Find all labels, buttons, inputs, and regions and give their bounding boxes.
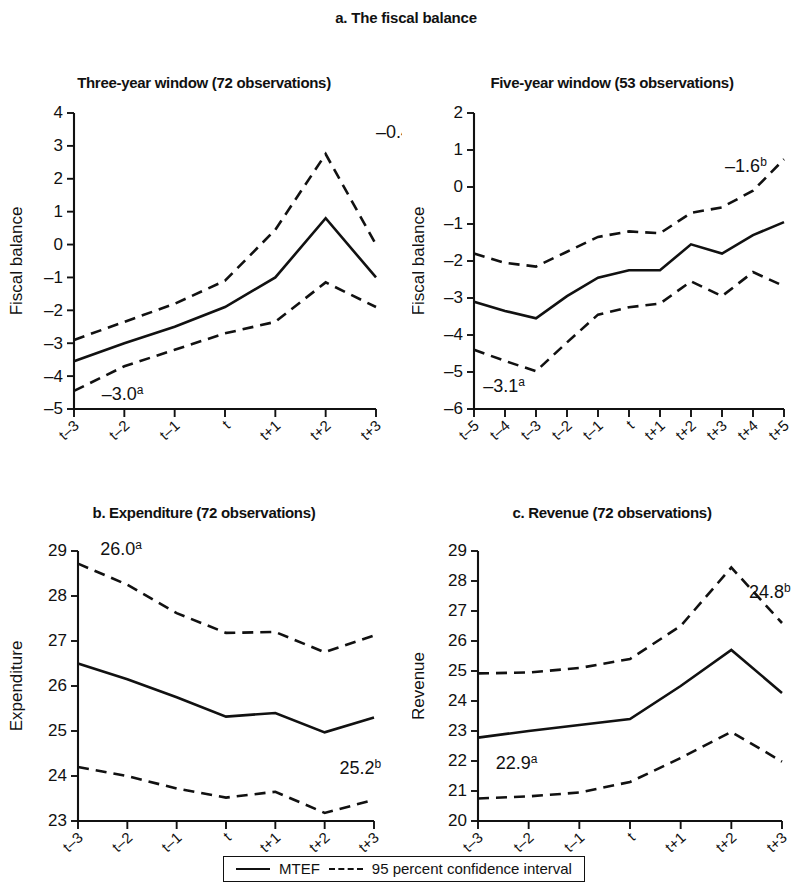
legend-swatch-mtef xyxy=(236,868,270,870)
y-axis-tick-label: –6 xyxy=(444,399,463,418)
series-confidence-interval-line xyxy=(478,568,782,674)
y-axis-tick-label: 22 xyxy=(448,751,467,770)
y-axis-tick-label: 20 xyxy=(448,811,467,830)
x-axis-tick-label: t+2 xyxy=(672,417,699,444)
y-axis-tick-label: –5 xyxy=(444,362,463,381)
y-axis-tick-label: –3 xyxy=(444,288,463,307)
legend-swatch-confidence-interval xyxy=(329,868,363,870)
x-axis-tick-label: t xyxy=(624,828,639,844)
x-axis-tick-label: t+1 xyxy=(256,829,283,856)
x-axis-tick-label: t+2 xyxy=(306,417,333,444)
chart-revenue: 29282726252423222120t–3t–2t–1tt+1t+2t+3R… xyxy=(412,521,812,873)
x-axis-tick-label: t xyxy=(220,828,235,844)
data-annotation: 24.8b xyxy=(749,581,791,602)
y-axis-tick-label: 28 xyxy=(448,571,467,590)
y-axis-tick-label: 1 xyxy=(54,202,63,221)
y-axis-tick-label: –2 xyxy=(44,301,63,320)
x-axis-tick-label: t–2 xyxy=(105,417,132,444)
x-axis-tick-label: t–5 xyxy=(455,417,482,444)
y-axis-tick-label: 26 xyxy=(48,676,67,695)
x-axis-tick-label: t–3 xyxy=(459,829,486,856)
x-axis-tick-label: t–4 xyxy=(486,417,513,444)
data-annotation: –3.1a xyxy=(483,375,525,396)
series-confidence-interval-line xyxy=(78,564,374,653)
x-axis-tick-label: t–1 xyxy=(579,417,606,444)
y-axis-title: Fiscal balance xyxy=(7,207,26,316)
y-axis-tick-label: –4 xyxy=(444,325,463,344)
y-axis-title: Expenditure xyxy=(7,641,26,732)
y-axis-tick-label: –4 xyxy=(44,367,63,386)
y-axis-tick-label: 25 xyxy=(448,661,467,680)
series-confidence-interval-line xyxy=(474,272,784,371)
series-mtef-line xyxy=(474,222,784,318)
y-axis-tick-label: –5 xyxy=(44,399,63,418)
x-axis-tick-label: t xyxy=(219,416,234,432)
y-axis-tick-label: 24 xyxy=(48,766,67,785)
y-axis-tick-label: 25 xyxy=(48,721,67,740)
figure-title: a. The fiscal balance xyxy=(0,0,812,26)
x-axis-tick-label: t+3 xyxy=(355,829,382,856)
x-axis-tick-label: t–1 xyxy=(560,829,587,856)
series-mtef-line xyxy=(74,218,376,361)
y-axis-tick-label: 1 xyxy=(454,140,463,159)
panel-revenue: c. Revenue (72 observations) 29282726252… xyxy=(412,504,812,884)
y-axis-tick-label: –2 xyxy=(444,251,463,270)
chart-three-year-window: 43210–1–2–3–4–5t–3t–2t–1tt+1t+2t+3Fiscal… xyxy=(6,91,402,491)
series-confidence-interval-line xyxy=(74,282,376,391)
x-axis-tick-label: t+3 xyxy=(703,417,730,444)
panel-title-five-year: Five-year window (53 observations) xyxy=(412,74,812,91)
legend-label-mtef: MTEF xyxy=(279,860,320,877)
chart-legend: MTEF 95 percent confidence interval xyxy=(223,856,585,882)
x-axis-tick-label: t+3 xyxy=(763,829,790,856)
panel-title-expenditure: b. Expenditure (72 observations) xyxy=(6,504,402,521)
y-axis-tick-label: 2 xyxy=(454,103,463,122)
x-axis-tick-label: t–3 xyxy=(517,417,544,444)
series-mtef-line xyxy=(78,664,374,733)
data-annotation: –0.4b xyxy=(376,121,402,142)
panel-expenditure: b. Expenditure (72 observations) 2928272… xyxy=(6,504,402,884)
y-axis-tick-label: –3 xyxy=(44,334,63,353)
y-axis-tick-label: –1 xyxy=(444,214,463,233)
x-axis-tick-label: t+5 xyxy=(765,417,792,444)
x-axis-tick-label: t–2 xyxy=(510,829,537,856)
x-axis-tick-label: t xyxy=(623,416,638,432)
y-axis-tick-label: 29 xyxy=(448,541,467,560)
y-axis-tick-label: 21 xyxy=(448,781,467,800)
legend-label-confidence-interval: 95 percent confidence interval xyxy=(372,860,572,877)
panel-three-year-window: Three-year window (72 observations) 4321… xyxy=(6,74,402,504)
x-axis-tick-label: t–1 xyxy=(156,417,183,444)
data-annotation: 22.9a xyxy=(496,752,538,773)
data-annotation: –1.6b xyxy=(725,155,767,176)
y-axis-tick-label: 4 xyxy=(54,103,63,122)
y-axis-tick-label: –1 xyxy=(44,268,63,287)
y-axis-tick-label: 23 xyxy=(448,721,467,740)
y-axis-title: Revenue xyxy=(412,652,428,720)
y-axis-tick-label: 0 xyxy=(54,235,63,254)
panel-five-year-window: Five-year window (53 observations) 210–1… xyxy=(412,74,812,504)
x-axis-tick-label: t–3 xyxy=(55,417,82,444)
y-axis-tick-label: 27 xyxy=(448,601,467,620)
x-axis-tick-label: t+2 xyxy=(305,829,332,856)
data-annotation: 25.2b xyxy=(339,757,381,778)
x-axis-tick-label: t+1 xyxy=(641,417,668,444)
y-axis-title: Fiscal balance xyxy=(412,207,428,316)
chart-five-year-window: 210–1–2–3–4–5–6t–5t–4t–3t–2t–1tt+1t+2t+3… xyxy=(412,91,812,491)
y-axis-tick-label: 3 xyxy=(54,136,63,155)
y-axis-tick-label: 29 xyxy=(48,541,67,560)
series-confidence-interval-line xyxy=(78,767,374,813)
panel-title-three-year: Three-year window (72 observations) xyxy=(6,74,402,91)
x-axis-tick-label: t–2 xyxy=(548,417,575,444)
x-axis-tick-label: t+4 xyxy=(734,417,761,444)
y-axis-tick-label: 28 xyxy=(48,586,67,605)
x-axis-tick-label: t+3 xyxy=(357,417,384,444)
y-axis-tick-label: 27 xyxy=(48,631,67,650)
x-axis-tick-label: t+1 xyxy=(661,829,688,856)
y-axis-tick-label: 26 xyxy=(448,631,467,650)
series-mtef-line xyxy=(478,650,782,738)
series-confidence-interval-line xyxy=(74,154,376,340)
chart-expenditure: 29282726252423t–3t–2t–1tt+1t+2t+3Expendi… xyxy=(6,521,402,873)
panel-title-revenue: c. Revenue (72 observations) xyxy=(412,504,812,521)
x-axis-tick-label: t+1 xyxy=(256,417,283,444)
x-axis-tick-label: t–2 xyxy=(108,829,135,856)
data-annotation: 26.0a xyxy=(100,538,142,559)
